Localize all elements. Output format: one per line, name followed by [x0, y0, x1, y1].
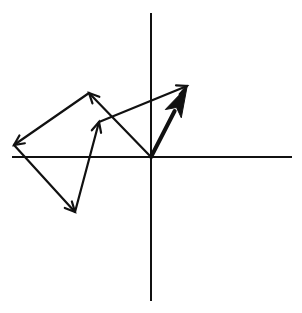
vector-4 [75, 122, 101, 212]
diagram-svg [0, 0, 302, 313]
vector-2 [14, 93, 89, 145]
resultant-shaft [151, 111, 175, 157]
vector-shaft [75, 122, 99, 212]
vector-3 [14, 145, 75, 212]
vector-diagram [0, 0, 302, 313]
vector-shaft [14, 145, 75, 212]
component-vectors [14, 85, 187, 212]
vector-shaft [14, 93, 89, 145]
